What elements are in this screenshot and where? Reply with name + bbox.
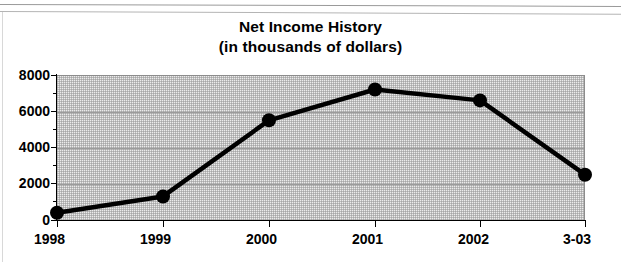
x-axis-line [56,220,586,221]
x-tick-2002 [480,221,481,227]
gridline-6000 [57,112,584,113]
x-axis-label-2002: 2002 [458,231,489,247]
y-axis-label-8000: 8000 [0,67,50,83]
x-tick-1999 [163,221,164,227]
y-tick-1000 [53,201,57,202]
y-axis-label-6000: 6000 [0,103,50,119]
x-tick-3-03 [585,221,586,227]
y-tick-7000 [53,93,57,94]
y-axis-label-4000: 4000 [0,139,50,155]
gridline-2000 [57,184,584,185]
chart-screenshot: Net Income History (in thousands of doll… [0,0,621,264]
x-axis-label-1998: 1998 [34,231,65,247]
x-axis-label-3-03: 3-03 [563,231,591,247]
plot-area [57,75,585,220]
x-axis-label-2000: 2000 [246,231,277,247]
chart-title-main: Net Income History [0,18,621,36]
x-axis-label-2001: 2001 [352,231,383,247]
y-axis-label-0: 0 [0,212,50,228]
y-tick-4000 [51,147,57,148]
scan-artifact-line-second [0,11,621,15]
x-axis-label-1999: 1999 [140,231,171,247]
y-axis-label-2000: 2000 [0,175,50,191]
y-tick-6000 [51,111,57,112]
x-tick-2001 [375,221,376,227]
scan-artifact-line-top [0,4,621,7]
y-tick-3000 [53,165,57,166]
chart-title-subtitle: (in thousands of dollars) [0,38,621,56]
y-tick-8000 [51,75,57,76]
y-tick-2000 [51,183,57,184]
x-tick-2000 [269,221,270,227]
y-tick-5000 [53,129,57,130]
x-tick-1998 [57,221,58,227]
gridline-4000 [57,148,584,149]
chart-title: Net Income History (in thousands of doll… [0,18,621,56]
